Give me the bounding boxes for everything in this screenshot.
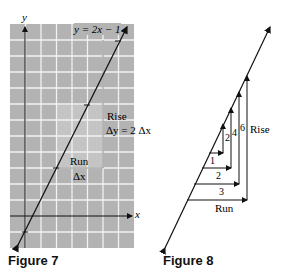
- rise-value-2: 2: [225, 132, 230, 143]
- equation-label: y = 2x − 1: [74, 23, 121, 35]
- run-value-3: 3: [219, 186, 224, 197]
- figures-canvas: [0, 0, 281, 272]
- figure8-diagram: [165, 27, 270, 248]
- rise-label: Rise: [107, 110, 127, 122]
- y-axis-label: y: [22, 11, 27, 23]
- run-value-2: 2: [216, 170, 221, 181]
- x-axis-label: x: [135, 208, 140, 220]
- rise-label-fig8: Rise: [250, 123, 270, 135]
- rise-formula: Δy = 2 Δx: [106, 124, 151, 136]
- rise-value-6: 6: [240, 122, 245, 133]
- run-label: Run: [70, 155, 88, 167]
- run-formula: Δx: [73, 170, 86, 182]
- run-label-fig8: Run: [215, 202, 233, 214]
- figure8-caption: Figure 8: [163, 253, 214, 268]
- run-value-1: 1: [210, 155, 215, 166]
- figure7-caption: Figure 7: [8, 253, 59, 268]
- rise-value-4: 4: [232, 127, 237, 138]
